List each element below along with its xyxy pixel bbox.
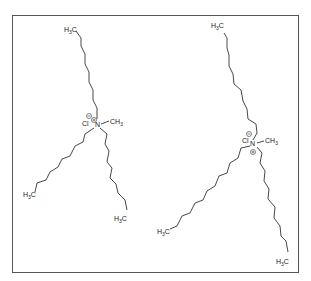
figure-frame <box>13 16 299 273</box>
mol2-chloride-label: Cl <box>242 137 249 144</box>
mol1-chloride-label: Cl <box>82 120 89 127</box>
mol2-nitrogen-label: N <box>250 140 255 147</box>
chemical-structure-figure: H3C CH3 N Cl H3C H3C H3C CH3 N <box>0 0 311 281</box>
